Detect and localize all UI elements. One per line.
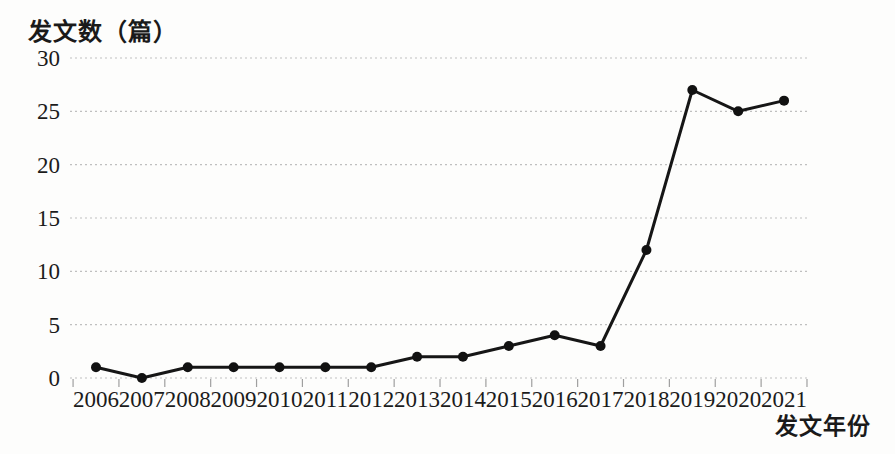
data-point [596,341,606,351]
x-tick-label: 2013 [394,387,440,412]
y-tick-label: 10 [37,259,60,284]
y-tick-label: 30 [37,46,60,71]
data-point [641,245,651,255]
data-point [320,362,330,372]
data-point [91,362,101,372]
plot-area: 0510152025302006200720082009201020112012… [0,0,895,454]
x-tick-label: 2019 [669,387,715,412]
x-tick-label: 2018 [623,387,669,412]
x-tick-label: 2010 [256,387,302,412]
x-tick-label: 2017 [578,387,624,412]
series-line [96,90,784,378]
x-tick-label: 2008 [165,387,211,412]
x-tick-label: 2006 [73,387,119,412]
x-axis-title: 发文年份 [775,407,871,441]
x-tick-label: 2016 [532,387,578,412]
y-tick-label: 0 [49,366,61,391]
chart-container: 发文数（篇） 051015202530200620072008200920102… [0,0,895,454]
x-tick-label: 2011 [303,387,348,412]
data-point [687,85,697,95]
x-tick-label: 2007 [119,387,165,412]
y-tick-label: 15 [37,206,60,231]
x-tick-label: 2012 [348,387,394,412]
data-point [779,96,789,106]
x-tick-label: 2015 [486,387,532,412]
data-point [229,362,239,372]
x-tick-label: 2014 [440,387,487,412]
data-point [183,362,193,372]
data-point [137,373,147,383]
data-point [550,330,560,340]
data-point [733,106,743,116]
y-tick-label: 20 [37,153,60,178]
y-tick-label: 25 [37,99,60,124]
data-point [366,362,376,372]
y-tick-label: 5 [49,313,61,338]
data-point [274,362,284,372]
x-tick-label: 2009 [211,387,257,412]
data-point [412,352,422,362]
data-point [458,352,468,362]
x-tick-label: 2020 [715,387,761,412]
data-point [504,341,514,351]
